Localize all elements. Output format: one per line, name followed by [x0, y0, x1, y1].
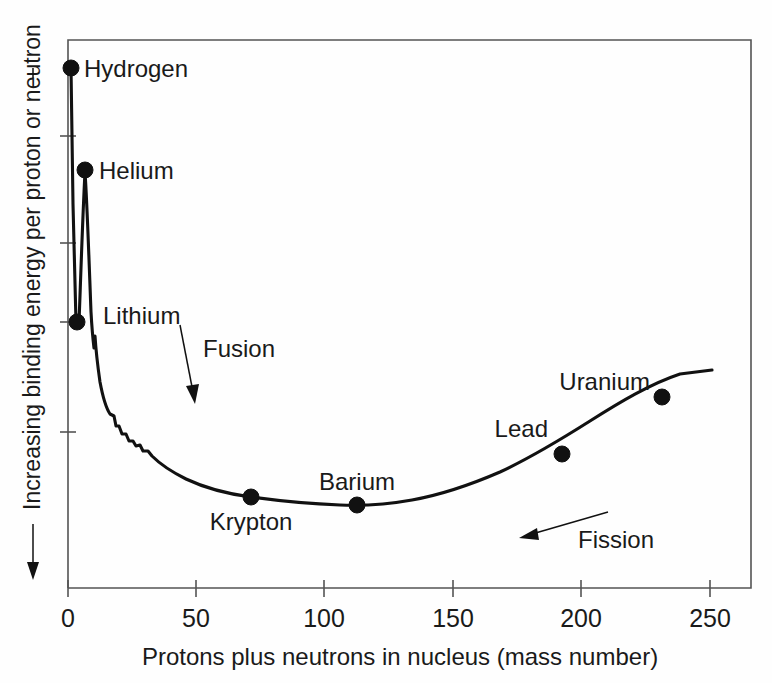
data-point-lithium [69, 314, 85, 330]
x-tick-label-250: 250 [689, 604, 731, 632]
fission-arrow-icon [519, 528, 539, 540]
x-axis-title: Protons plus neutrons in nucleus (mass n… [142, 643, 658, 670]
data-point-helium [77, 162, 93, 178]
data-point-label-lead: Lead [495, 415, 548, 442]
x-tick-label-100: 100 [303, 604, 345, 632]
x-tick-label-200: 200 [560, 604, 602, 632]
x-tick-label-0: 0 [61, 604, 75, 632]
data-point-lead [554, 446, 570, 462]
x-tick-label-150: 150 [432, 604, 474, 632]
data-point-label-krypton: Krypton [210, 508, 293, 535]
binding-energy-curve-line [71, 68, 712, 505]
data-point-krypton [243, 489, 259, 505]
y-axis-direction-arrow-icon [27, 562, 39, 580]
data-point-barium [349, 497, 365, 513]
data-point-label-helium: Helium [99, 157, 174, 184]
fusion-arrow-icon [186, 384, 199, 404]
x-tick-label-50: 50 [182, 604, 210, 632]
data-point-label-hydrogen: Hydrogen [84, 55, 188, 82]
data-point-label-uranium: Uranium [559, 368, 650, 395]
binding-energy-curve-figure: 0 50 100 150 200 250 Protons plus neutro… [0, 0, 772, 683]
data-point-label-lithium: Lithium [103, 302, 180, 329]
fusion-arrow-line [180, 325, 193, 392]
chart-canvas: 0 50 100 150 200 250 Protons plus neutro… [0, 0, 772, 683]
data-point-uranium [654, 389, 670, 405]
y-axis-title: Increasing binding energy per proton or … [19, 24, 45, 510]
data-point-label-barium: Barium [319, 468, 395, 495]
data-point-hydrogen [63, 60, 79, 76]
fission-label: Fission [578, 526, 654, 553]
fusion-label: Fusion [203, 335, 275, 362]
